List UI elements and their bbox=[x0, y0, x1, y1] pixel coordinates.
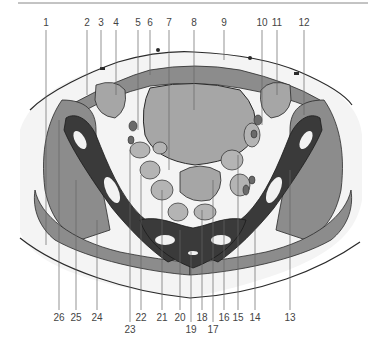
label-16: 16 bbox=[218, 313, 229, 323]
label-26: 26 bbox=[53, 313, 64, 323]
label-12: 12 bbox=[298, 18, 309, 28]
label-19: 19 bbox=[185, 325, 196, 335]
label-8: 8 bbox=[191, 18, 197, 28]
label-17: 17 bbox=[207, 325, 218, 335]
label-4: 4 bbox=[113, 18, 119, 28]
label-24: 24 bbox=[91, 313, 102, 323]
label-9: 9 bbox=[221, 18, 227, 28]
label-11: 11 bbox=[272, 18, 282, 28]
label-3: 3 bbox=[98, 18, 104, 28]
label-6: 6 bbox=[147, 18, 153, 28]
sacral-foramen-right bbox=[211, 235, 231, 245]
label-7: 7 bbox=[166, 18, 172, 28]
sacral-foramen-left bbox=[155, 235, 175, 245]
label-10: 10 bbox=[256, 18, 267, 28]
sacral-canal bbox=[188, 251, 198, 255]
pelvis-cross-section-figure: 1234567891011122625242322212019181716151… bbox=[0, 0, 386, 347]
uterus bbox=[180, 166, 221, 201]
label-13: 13 bbox=[284, 313, 295, 323]
label-5: 5 bbox=[135, 18, 141, 28]
anatomy-drawing bbox=[0, 0, 386, 347]
label-1: 1 bbox=[43, 18, 49, 28]
label-18: 18 bbox=[196, 313, 207, 323]
label-22: 22 bbox=[135, 313, 146, 323]
label-15: 15 bbox=[232, 313, 243, 323]
label-2: 2 bbox=[84, 18, 90, 28]
label-23: 23 bbox=[124, 325, 135, 335]
label-25: 25 bbox=[70, 313, 81, 323]
label-20: 20 bbox=[174, 313, 185, 323]
label-14: 14 bbox=[249, 313, 260, 323]
label-21: 21 bbox=[156, 313, 167, 323]
